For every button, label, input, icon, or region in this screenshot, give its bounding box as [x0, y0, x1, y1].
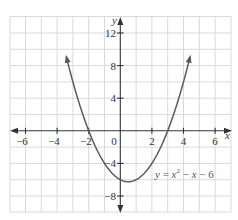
- y-tick-label: 12: [105, 27, 116, 39]
- y-axis-up-arrow-icon: [117, 17, 123, 25]
- x-tick-label: 6: [212, 135, 218, 147]
- x-tick-label: 2: [149, 135, 155, 147]
- equation-label: y = x2 − x − 6: [154, 167, 214, 180]
- parabola-chart: −6 −4 −2 0 2 4 6 12 8 4 −4 −8 y x y = x2…: [0, 0, 238, 220]
- x-tick-label: 4: [181, 135, 187, 147]
- y-tick-label: −8: [104, 190, 116, 202]
- eq-minus: −: [180, 168, 192, 180]
- eq-equals: =: [160, 168, 172, 180]
- x-axis-left-arrow-icon: [10, 128, 18, 134]
- curve-right-arrow-icon: [186, 55, 192, 63]
- x-tick-label: −4: [48, 135, 60, 147]
- parabola-curve: [65, 55, 192, 182]
- y-tick-label: 4: [111, 92, 117, 104]
- x-tick-label: −6: [16, 135, 28, 147]
- y-tick-label: 8: [111, 60, 117, 72]
- x-axis-title: x: [224, 129, 230, 141]
- x-tick-labels: −6 −4 −2 0 2 4 6: [16, 135, 218, 147]
- curve-left-arrow-icon: [65, 55, 71, 63]
- y-axis-title: y: [111, 14, 117, 26]
- origin-label: 0: [111, 135, 117, 147]
- y-tick-label: −4: [104, 157, 116, 169]
- x-tick-label: −2: [80, 135, 92, 147]
- eq-tail: − 6: [197, 168, 215, 180]
